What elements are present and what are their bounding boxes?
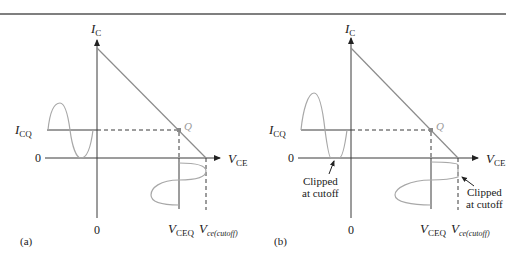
ic-axis-label: IC (91, 22, 101, 35)
output-voltage-sine-clipped (395, 162, 458, 205)
ic-axis-label: IC (345, 22, 355, 35)
icq-label: ICQ (15, 123, 32, 136)
q-label: Q (184, 121, 192, 132)
clipped-note-input: Clipped at cutoff (302, 175, 339, 199)
load-line (351, 48, 458, 158)
icq-label: ICQ (269, 123, 286, 136)
panel-caption-b: (b) (274, 236, 287, 247)
panel-a (45, 40, 220, 218)
clipped-note-output: Clipped at cutoff (466, 186, 503, 210)
vcutoff-label: Vce(cutoff) (199, 222, 238, 235)
zero-x-label: 0 (94, 224, 100, 236)
clipped-arrow-input (329, 161, 334, 174)
vceq-label: VCEQ (168, 222, 194, 235)
vce-axis-label: VCE (486, 152, 505, 165)
load-line (97, 48, 206, 158)
q-point (429, 128, 433, 132)
input-current-sine-clipped (301, 93, 347, 158)
panel-caption-a: (a) (20, 236, 32, 247)
clipped-arrow-output (462, 177, 474, 186)
vceq-label: VCEQ (420, 222, 446, 235)
q-label: Q (436, 121, 444, 132)
q-point (177, 128, 181, 132)
vcutoff-label: Vce(cutoff) (451, 222, 490, 235)
figure-graphics (0, 0, 529, 257)
load-line-figure: IC ICQ 0 VCE Q 0 VCEQ Vce(cutoff) (a) IC… (0, 0, 529, 257)
zero-y-label: 0 (288, 152, 294, 164)
zero-x-label: 0 (348, 224, 354, 236)
vce-axis-label: VCE (228, 152, 247, 165)
zero-y-label: 0 (35, 152, 41, 164)
